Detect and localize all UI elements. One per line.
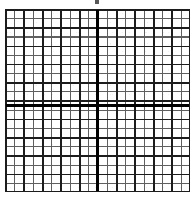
x-axis-line: [5, 104, 190, 107]
graph-paper-figure: [0, 0, 194, 197]
grid-plot-area[interactable]: [5, 9, 190, 192]
top-artifact-mark-icon: [95, 0, 99, 4]
y-axis-line: [96, 9, 99, 192]
